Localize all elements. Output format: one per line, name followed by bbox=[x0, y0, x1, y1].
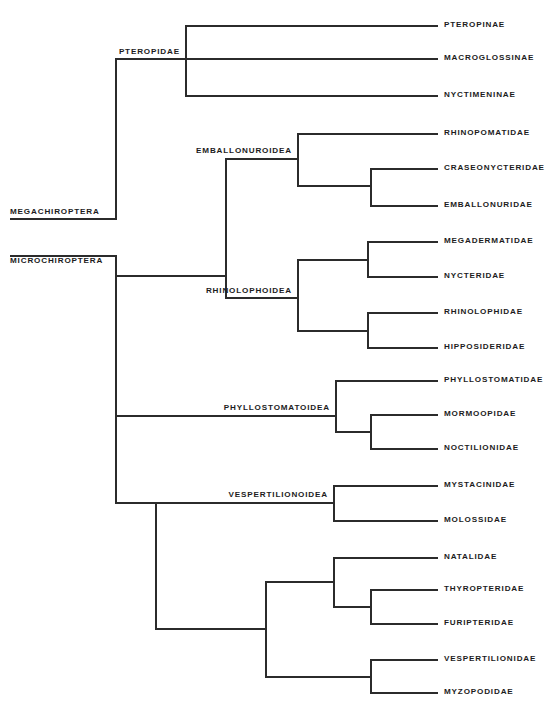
taxon-label: RHINOLOPHIDAE bbox=[444, 308, 523, 316]
taxon-label: NYCTIMENINAE bbox=[444, 91, 516, 99]
taxon-label: MOLOSSIDAE bbox=[444, 516, 507, 524]
taxon-label: NOCTILIONIDAE bbox=[444, 444, 519, 452]
mormoop-noctil-node bbox=[370, 414, 372, 450]
hipposideridae-branch bbox=[367, 347, 438, 349]
megadermatidae-branch bbox=[367, 241, 438, 243]
microchiroptera-lower bbox=[115, 415, 117, 504]
emballonuridae-branch bbox=[370, 205, 438, 207]
vesper-myzopod-node bbox=[370, 659, 372, 694]
pteropidae-stem bbox=[115, 58, 185, 60]
noctilionidae-branch bbox=[370, 448, 438, 450]
thyrop-furip-stem bbox=[333, 606, 370, 608]
mormoop-noctil-stem bbox=[335, 431, 370, 433]
rhinoloph-hippos-stem bbox=[297, 330, 367, 332]
rhinolophoidea-stem bbox=[225, 297, 297, 299]
natalidae-branch bbox=[333, 557, 438, 559]
rhinoloph-hippos-node bbox=[367, 312, 369, 349]
clade-label: PTEROPIDAE bbox=[119, 48, 180, 56]
megachiroptera-node bbox=[115, 58, 117, 220]
taxon-label: THYROPTERIDAE bbox=[444, 585, 524, 593]
craseonycteridae-branch bbox=[370, 168, 438, 170]
taxon-label: PHYLLOSTOMATIDAE bbox=[444, 376, 543, 384]
taxon-label: MORMOOPIDAE bbox=[444, 410, 516, 418]
phyllostomatoid-node bbox=[335, 380, 337, 433]
vespertilionoidea-stem bbox=[115, 502, 155, 504]
myzopodidae-branch bbox=[370, 692, 438, 694]
phyllostomatoidea-stem bbox=[115, 415, 335, 417]
megaderm-nycteris-node bbox=[367, 241, 369, 278]
emballonuroid-inner-node bbox=[370, 168, 372, 207]
megachiroptera-stem bbox=[10, 218, 115, 220]
taxon-label: PTEROPINAE bbox=[444, 21, 505, 29]
macroglossinae-branch bbox=[185, 58, 438, 60]
thyropteridae-branch bbox=[370, 589, 438, 591]
taxon-label: FURIPTERIDAE bbox=[444, 619, 514, 627]
lower-vesper-node bbox=[265, 581, 267, 678]
rhinopomatidae-branch bbox=[297, 133, 438, 135]
taxon-label: NATALIDAE bbox=[444, 553, 497, 561]
megaderm-nycteris-stem bbox=[297, 259, 367, 261]
phyllostomatidae-branch bbox=[335, 380, 438, 382]
clade-label: VESPERTILIONOIDEA bbox=[229, 491, 328, 499]
taxon-label: MYSTACINIDAE bbox=[444, 481, 515, 489]
molossidae-branch bbox=[333, 520, 438, 522]
taxon-label: VESPERTILIONIDAE bbox=[444, 655, 536, 663]
taxon-label: EMBALLONURIDAE bbox=[444, 201, 533, 209]
clade-label: PHYLLOSTOMATOIDEA bbox=[224, 404, 330, 412]
lower-vesper-stem bbox=[155, 628, 265, 630]
vesper-myzopod-stem bbox=[265, 676, 370, 678]
cladogram-diagram: PTEROPINAEMACROGLOSSINAENYCTIMENINAERHIN… bbox=[0, 0, 558, 711]
mystac-moloss-stem bbox=[155, 502, 333, 504]
embal-rhinoloph-stem bbox=[115, 275, 225, 277]
nyctimeninae-branch bbox=[185, 95, 438, 97]
nycteridae-branch bbox=[367, 276, 438, 278]
mormoopidae-branch bbox=[370, 414, 438, 416]
clade-label: MEGACHIROPTERA bbox=[10, 208, 100, 216]
pteropinae-branch bbox=[185, 25, 438, 27]
pteropidae-node bbox=[185, 25, 187, 97]
clade-label: EMBALLONUROIDEA bbox=[196, 147, 292, 155]
mystac-moloss-node bbox=[333, 485, 335, 522]
natal-thyrop-furip-stem bbox=[265, 581, 333, 583]
emballonuroid-inner bbox=[297, 185, 370, 187]
taxon-label: MEGADERMATIDAE bbox=[444, 237, 534, 245]
clade-label: MICROCHIROPTERA bbox=[10, 257, 103, 265]
emballonuroidea-node bbox=[225, 158, 227, 277]
rhinolophoidea-node bbox=[297, 259, 299, 332]
clade-label: RHINOLOPHOIDEA bbox=[206, 287, 292, 295]
taxon-label: CRASEONYCTERIDAE bbox=[444, 164, 545, 172]
vespertilionidae-branch bbox=[370, 659, 438, 661]
taxon-label: RHINOPOMATIDAE bbox=[444, 129, 530, 137]
taxon-label: HIPPOSIDERIDAE bbox=[444, 343, 525, 351]
vespertilionoidea-node bbox=[155, 502, 157, 630]
natal-group-node bbox=[333, 557, 335, 608]
mystacinidae-branch bbox=[333, 485, 438, 487]
taxon-label: MACROGLOSSINAE bbox=[444, 54, 534, 62]
furipteridae-branch bbox=[370, 623, 438, 625]
emballonuroidea-stem bbox=[225, 158, 297, 160]
microchiroptera-node bbox=[115, 255, 117, 417]
taxon-label: NYCTERIDAE bbox=[444, 272, 505, 280]
taxon-label: MYZOPODIDAE bbox=[444, 688, 514, 696]
rhinolophidae-branch bbox=[367, 312, 438, 314]
thyrop-furip-node bbox=[370, 589, 372, 625]
emballonuroid-node bbox=[297, 133, 299, 187]
